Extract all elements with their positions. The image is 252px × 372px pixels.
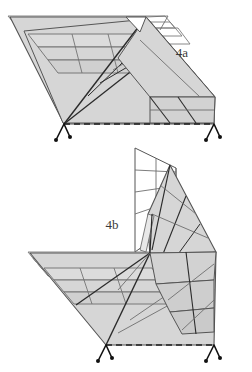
figure-4b-leg-right: [204, 345, 222, 363]
figure-4a: 4a: [8, 16, 222, 142]
figure-4a-leg-right: [204, 124, 222, 142]
figure-4b: 4b: [28, 148, 222, 363]
figure-4b-left-strips: [44, 268, 168, 304]
figure-4b-leg-left: [96, 345, 114, 363]
figure-4a-leg-left: [54, 124, 72, 142]
figure-4a-label: 4a: [176, 45, 189, 60]
technical-drawing-canvas: 4a: [0, 0, 252, 372]
figure-4b-label: 4b: [106, 217, 119, 232]
